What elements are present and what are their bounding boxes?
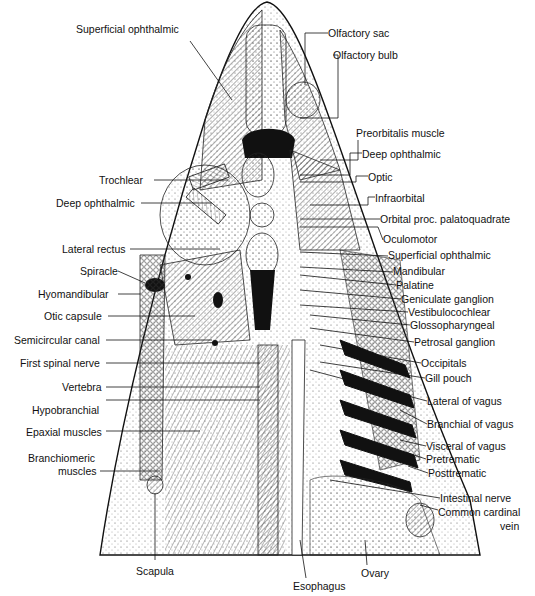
- label-visceral-of-vagus: Visceral of vagus: [426, 440, 506, 452]
- label-orbital-proc-palatoquadrate: Orbital proc. palatoquadrate: [380, 213, 510, 225]
- label-scapula: Scapula: [136, 565, 174, 577]
- label-deep-ophthalmic-left: Deep ophthalmic: [56, 197, 135, 209]
- label-hypobranchial: Hypobranchial: [32, 404, 99, 416]
- label-oculomotor: Oculomotor: [383, 233, 437, 245]
- label-infraorbital: Infraorbital: [375, 192, 425, 204]
- label-olfactory-sac: Olfactory sac: [328, 27, 389, 39]
- label-spiracle: Spiracle: [80, 265, 118, 277]
- label-mandibular: Mandibular: [393, 265, 445, 277]
- label-palatine: Palatine: [396, 279, 434, 291]
- label-ovary: Ovary: [361, 567, 389, 579]
- label-branchiomeric-muscles-line2: muscles: [58, 465, 97, 477]
- label-common-cardinal-vein-line1: Common cardinal: [438, 506, 520, 518]
- label-glossopharyngeal: Glossopharyngeal: [410, 319, 495, 331]
- label-deep-ophthalmic-right: Deep ophthalmic: [362, 148, 441, 160]
- label-superficial-ophthalmic-top: Superficial ophthalmic: [76, 23, 179, 35]
- label-trochlear: Trochlear: [99, 174, 143, 186]
- label-geniculate-ganglion: Geniculate ganglion: [401, 293, 494, 305]
- label-petrosal-ganglion: Petrosal ganglion: [414, 336, 495, 348]
- label-epaxial-muscles: Epaxial muscles: [26, 426, 102, 438]
- label-lateral-rectus: Lateral rectus: [62, 243, 126, 255]
- label-occipitals: Occipitals: [421, 357, 467, 369]
- label-pretrematic: Pretrematic: [426, 453, 480, 465]
- label-optic: Optic: [368, 171, 393, 183]
- label-otic-capsule: Otic capsule: [44, 310, 102, 322]
- label-lateral-of-vagus: Lateral of vagus: [427, 395, 502, 407]
- label-vestibulocochlear: Vestibulocochlear: [408, 306, 490, 318]
- label-intestinal-nerve: Intestinal nerve: [440, 492, 511, 504]
- label-superficial-ophthalmic-right: Superficial ophthalmic: [388, 249, 491, 261]
- label-branchial-of-vagus: Branchial of vagus: [427, 418, 513, 430]
- label-common-cardinal-vein-line2: vein: [500, 520, 519, 532]
- label-gill-pouch: Gill pouch: [425, 372, 472, 384]
- label-semicircular-canal: Semicircular canal: [14, 334, 100, 346]
- label-hyomandibular: Hyomandibular: [38, 288, 109, 300]
- label-posttrematic: Posttrematic: [428, 467, 486, 479]
- shark-head-anatomy-figure: Superficial ophthalmic Trochlear Deep op…: [0, 0, 535, 596]
- label-preorbitalis-muscle: Preorbitalis muscle: [356, 127, 445, 139]
- label-vertebra: Vertebra: [62, 381, 102, 393]
- label-branchiomeric-muscles-line1: Branchiomeric: [28, 452, 95, 464]
- label-olfactory-bulb: Olfactory bulb: [333, 49, 398, 61]
- label-first-spinal-nerve: First spinal nerve: [20, 357, 100, 369]
- label-esophagus: Esophagus: [293, 580, 346, 592]
